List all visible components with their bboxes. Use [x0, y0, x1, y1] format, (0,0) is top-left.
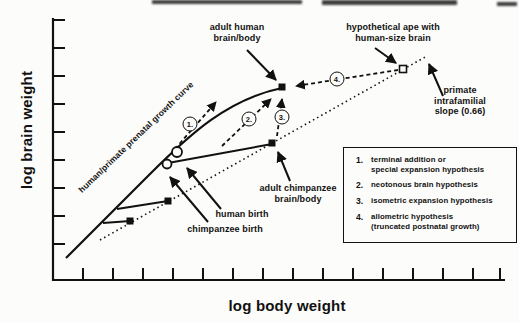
hypothetical-ape-pointer-arrow	[375, 48, 396, 63]
hypotheses-legend-box: 1. terminal addition or special expansio…	[343, 147, 517, 243]
legend-item-3: 3. isometric expansion hypothesis	[356, 196, 512, 206]
primate-branch-b	[117, 201, 168, 209]
legend-item-number: 1.	[356, 155, 371, 165]
hypothesis-circle-4: 4.	[330, 72, 345, 87]
hypothetical-ape-label: hypothetical ape with human-size brain	[346, 22, 440, 43]
human-birth-marker	[172, 147, 182, 157]
primate-adult-marker	[127, 218, 134, 225]
legend-item-number: 2.	[356, 180, 371, 190]
y-axis-ticks	[53, 20, 65, 244]
chimp-birth-marker	[163, 160, 172, 169]
legend-item-2: 2. neotonous brain hypothesis	[356, 180, 512, 190]
legend-item-text: allometric hypothesis (truncated postnat…	[371, 212, 480, 231]
primate-branch-a	[103, 221, 130, 223]
hypothetical-ape-marker	[400, 66, 407, 73]
adult-chimp-marker	[269, 140, 276, 147]
legend-item-text: neotonous brain hypothesis	[371, 180, 478, 190]
hypothesis-arrow-4	[296, 70, 398, 86]
x-axis-label: log body weight	[228, 297, 345, 315]
adult-human-marker	[279, 84, 286, 91]
hypothesis-circle-2: 2.	[242, 112, 257, 127]
legend-item-text: terminal addition or special expansion h…	[371, 155, 484, 174]
intrafamilial-slope-label: primate intrafamilial slope (0.66)	[431, 85, 490, 117]
adult-human-label: adult human brain/body	[210, 22, 265, 43]
chimp-postnatal-line	[168, 144, 272, 163]
legend-item-4: 4. allometric hypothesis (truncated post…	[356, 212, 512, 231]
legend-item-number: 4.	[356, 212, 371, 222]
adult-human-pointer-arrow	[247, 50, 276, 80]
adult-chimp-label: adult chimpanzee brain/body	[259, 183, 336, 204]
chimp-birth-label: chimpanzee birth	[187, 224, 263, 235]
hypothesis-circle-3: 3.	[275, 110, 290, 125]
legend-item-number: 3.	[356, 196, 371, 206]
legend-item-text: isometric expansion hypothesis	[371, 196, 493, 206]
primate-adult-marker	[165, 198, 172, 205]
human-birth-label: human birth	[215, 209, 268, 220]
adult-chimp-pointer-arrow	[278, 152, 290, 181]
y-axis-label: log brain weight	[18, 71, 36, 189]
figure-brain-body-allometry: 1. 2. 3. 4. log brain weight log body we…	[0, 0, 519, 323]
legend-item-1: 1. terminal addition or special expansio…	[356, 155, 512, 174]
chimp-birth-pointer-arrow	[170, 177, 208, 222]
x-axis-ticks	[83, 268, 500, 280]
hypothesis-circle-1: 1.	[183, 117, 198, 132]
